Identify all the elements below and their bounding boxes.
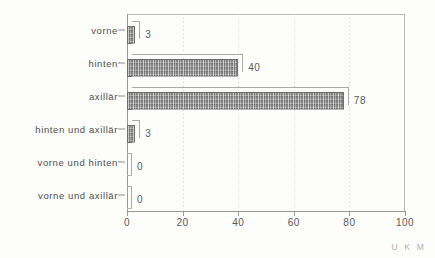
plot-area [127, 14, 405, 211]
category-tick-2 [118, 96, 125, 97]
x-tick-label-20: 20 [163, 217, 203, 228]
category-tick-1 [118, 63, 125, 64]
bar-top-edge-1 [132, 54, 243, 55]
bar-face-1 [127, 59, 238, 77]
bar-right-edge-1 [242, 54, 243, 72]
gridline-40 [238, 14, 239, 211]
bar-bottom-edge-1 [132, 76, 238, 77]
bar-bottom-edge-0 [132, 43, 135, 44]
category-label-1: hinten [89, 58, 118, 69]
bar-right-edge-0 [139, 21, 140, 39]
bar-face-0 [127, 26, 135, 44]
category-tick-5 [118, 194, 125, 195]
gridline-20 [183, 14, 184, 211]
category-label-3: hinten und axillär [35, 123, 118, 134]
bar-5 [127, 186, 132, 209]
gridline-80 [349, 14, 350, 211]
bar-face-3 [127, 125, 135, 143]
bar-value-label-1: 40 [248, 62, 260, 73]
x-tick-40 [238, 211, 239, 216]
bar-2 [127, 87, 349, 110]
bar-value-label-3: 3 [145, 127, 151, 138]
bar-zero-bottom-4 [127, 175, 132, 176]
x-tick-label-0: 0 [107, 217, 147, 228]
bar-value-label-2: 78 [354, 95, 366, 106]
x-tick-60 [294, 211, 295, 216]
category-label-0: vorne [91, 25, 118, 36]
x-axis-line [127, 211, 406, 212]
bar-right-edge-3 [139, 120, 140, 138]
bar-4 [127, 153, 132, 176]
bar-3 [127, 120, 140, 143]
x-tick-0 [127, 211, 128, 216]
category-tick-3 [118, 128, 125, 129]
bar-chart: 020406080100 34078300 vornehintenaxillär… [0, 0, 435, 258]
bar-0 [127, 21, 140, 44]
gridline-60 [294, 14, 295, 211]
bar-value-label-4: 0 [137, 160, 143, 171]
bar-zero-top-5 [127, 186, 132, 187]
bar-top-edge-2 [132, 87, 349, 88]
category-tick-4 [118, 161, 125, 162]
bar-zero-bottom-5 [127, 208, 132, 209]
bar-bottom-edge-2 [132, 109, 344, 110]
bar-zero-top-4 [127, 153, 132, 154]
bar-value-label-0: 3 [145, 29, 151, 40]
x-tick-100 [405, 211, 406, 216]
bar-zero-edge-4 [131, 153, 132, 176]
category-tick-0 [118, 30, 125, 31]
category-label-4: vorne und hinten [38, 156, 118, 167]
category-label-5: vorne und axillär [38, 189, 118, 200]
bar-value-label-5: 0 [137, 193, 143, 204]
watermark-label: U K M [391, 242, 426, 252]
bar-bottom-edge-3 [132, 142, 135, 143]
x-tick-20 [183, 211, 184, 216]
bar-right-edge-2 [348, 87, 349, 105]
x-tick-label-60: 60 [274, 217, 314, 228]
bar-face-2 [127, 92, 344, 110]
bar-1 [127, 54, 243, 77]
category-label-2: axillär [89, 91, 118, 102]
x-tick-80 [349, 211, 350, 216]
x-tick-label-40: 40 [218, 217, 258, 228]
bar-zero-edge-5 [131, 186, 132, 209]
x-tick-label-80: 80 [329, 217, 369, 228]
x-tick-label-100: 100 [385, 217, 425, 228]
